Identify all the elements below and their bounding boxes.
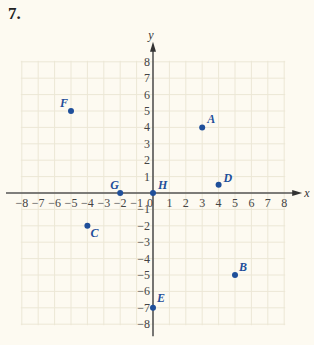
y-tick-label: −3 [137, 235, 150, 249]
y-tick-label: −5 [137, 268, 150, 282]
point-label-f: F [59, 96, 68, 110]
y-tick-label: 6 [144, 88, 150, 102]
point-label-e: E [156, 291, 165, 305]
x-tick-label: −7 [32, 196, 45, 210]
y-axis-arrow-icon [150, 42, 156, 52]
x-tick-label: 4 [216, 196, 222, 210]
x-tick-label: −6 [48, 196, 61, 210]
y-tick-label: 8 [144, 55, 150, 69]
y-tick-label: −6 [137, 284, 150, 298]
x-tick-label: 1 [166, 196, 172, 210]
y-tick-label: 2 [144, 153, 150, 167]
x-tick-label: 2 [183, 196, 189, 210]
x-tick-label: 3 [199, 196, 205, 210]
x-tick-label: −3 [97, 196, 110, 210]
x-tick-label: −2 [114, 196, 127, 210]
x-tick-label: −8 [15, 196, 28, 210]
y-tick-label: −7 [137, 301, 150, 315]
x-tick-label: −4 [81, 196, 94, 210]
coordinate-plane: xy−8−7−6−5−4−3−2−1012345678−8−7−6−5−4−3−… [0, 0, 314, 345]
x-tick-label: −5 [65, 196, 78, 210]
point-label-h: H [157, 178, 168, 192]
y-tick-label: 5 [144, 104, 150, 118]
point-h [150, 190, 156, 196]
y-tick-label: 1 [144, 170, 150, 184]
x-axis-label: x [303, 186, 310, 200]
point-label-d: D [223, 171, 233, 185]
y-tick-label: 4 [144, 120, 150, 134]
x-tick-label: 7 [265, 196, 271, 210]
x-tick-label: 6 [248, 196, 254, 210]
point-e [150, 305, 156, 311]
y-tick-label: −8 [137, 317, 150, 331]
y-tick-label: 7 [144, 71, 150, 85]
point-a [199, 124, 205, 130]
point-f [68, 108, 74, 114]
point-b [232, 272, 238, 278]
point-label-c: C [90, 226, 99, 240]
y-axis-label: y [147, 28, 154, 42]
x-axis-arrow-icon [292, 190, 302, 196]
point-label-a: A [206, 112, 215, 126]
point-label-b: B [238, 260, 247, 274]
y-tick-label: −4 [137, 252, 150, 266]
point-d [216, 182, 222, 188]
y-tick-label: −2 [137, 219, 150, 233]
point-label-g: G [110, 178, 119, 192]
y-tick-label: 3 [144, 137, 150, 151]
x-tick-label: 5 [232, 196, 238, 210]
y-tick-label: −1 [137, 202, 150, 216]
x-tick-label: 8 [281, 196, 287, 210]
